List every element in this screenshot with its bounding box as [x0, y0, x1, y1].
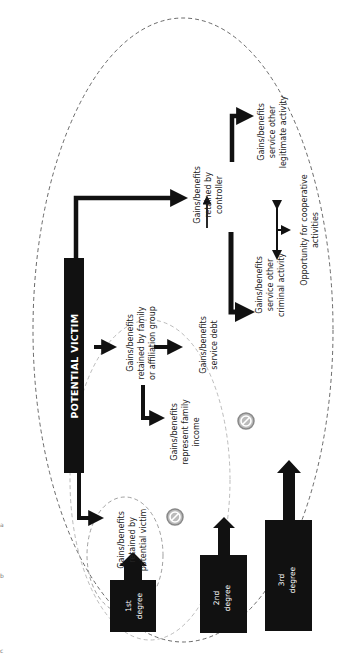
prohibit-icon-second [238, 413, 254, 429]
degree-box-third: 3rd degree [265, 460, 312, 631]
margin-mark-b: b [0, 572, 4, 579]
margin-mark-a: a [0, 521, 4, 528]
svg-text:retained by family: retained by family [137, 306, 146, 379]
svg-text:2nd: 2nd [212, 591, 221, 606]
svg-text:Gains/benefits: Gains/benefits [255, 256, 264, 314]
svg-text:Gains/benefits: Gains/benefits [193, 166, 202, 224]
svg-text:retained by: retained by [128, 517, 137, 563]
arrow-controller-to-criminal [231, 232, 246, 312]
margin-mark-c: c [0, 647, 3, 654]
svg-text:legitimate activity: legitimate activity [279, 95, 288, 168]
svg-text:controller: controller [215, 175, 224, 214]
node-retained-by-family: Gains/benefits retained by family or aff… [126, 306, 157, 380]
svg-text:3rd: 3rd [277, 574, 286, 587]
svg-text:1st: 1st [124, 600, 133, 612]
degree-box-second: 2nd degree [200, 517, 247, 633]
svg-text:Gains/benefits: Gains/benefits [117, 511, 126, 569]
svg-text:activities: activities [311, 212, 320, 248]
node-retained-by-victim: Gains/benefits retained by potential vic… [117, 508, 148, 571]
node-legitimate-activity: Gains/benefits service other legitimate … [257, 95, 288, 168]
svg-text:degree: degree [135, 592, 144, 619]
node-retained-by-controller: Gains/benefits retained by controller [193, 166, 224, 224]
svg-text:Gains/benefits: Gains/benefits [170, 403, 179, 461]
svg-text:service debt: service debt [210, 320, 219, 369]
arrow-victim-to-self [79, 473, 97, 518]
prohibit-icon-first [167, 509, 183, 525]
svg-text:retained by: retained by [204, 172, 213, 218]
svg-text:Gains/benefits: Gains/benefits [199, 316, 208, 374]
svg-text:represent family: represent family [181, 399, 190, 465]
svg-text:Gains/benefits: Gains/benefits [126, 314, 135, 372]
svg-text:service other: service other [266, 258, 275, 311]
svg-text:Gains/benefits: Gains/benefits [257, 103, 266, 161]
svg-text:or affiliation group: or affiliation group [148, 306, 157, 380]
svg-text:degree: degree [223, 584, 232, 611]
node-service-debt: Gains/benefits service debt [199, 316, 219, 374]
node-criminal-activity: Gains/benefits service other criminal ac… [255, 253, 286, 317]
svg-text:income: income [192, 417, 201, 446]
node-family-income: Gains/benefits represent family income [170, 399, 201, 465]
arrow-victim-to-controller [76, 198, 180, 258]
svg-text:degree: degree [288, 566, 297, 593]
node-cooperative: Opportunity for cooperative activities [300, 174, 320, 286]
arrow-controller-to-legitimate [232, 116, 246, 162]
arrow-family-to-income [142, 418, 145, 438]
svg-text:Opportunity for cooperative: Opportunity for cooperative [300, 174, 309, 286]
svg-text:criminal activity: criminal activity [277, 253, 286, 317]
svg-text:service other: service other [268, 105, 277, 158]
arrow-family-to-income-elbow [143, 385, 158, 418]
trafficking-degrees-diagram: POTENTIAL VICTIM 1st degree 2nd degree 3… [0, 0, 339, 659]
potential-victim-label: POTENTIAL VICTIM [69, 314, 80, 419]
svg-text:potential victim: potential victim [139, 508, 148, 571]
